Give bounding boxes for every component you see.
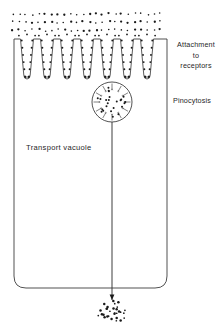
pit-receptor-dot — [61, 40, 63, 42]
released-ligand-dot — [115, 320, 117, 322]
extracellular-ligand-dot — [120, 20, 122, 22]
pit-receptor-dot — [49, 61, 51, 63]
released-ligand-dot — [115, 308, 118, 311]
pit-receptor-dot — [50, 54, 52, 56]
pit-mouth-dot — [118, 35, 120, 37]
coated-pit — [18, 34, 36, 80]
pit-ligand-dot — [87, 76, 89, 78]
extracellular-ligand-dot — [134, 28, 136, 30]
coated-pit-group — [18, 34, 156, 80]
coated-pit — [138, 34, 156, 80]
released-ligand-dot — [109, 310, 111, 312]
extracellular-ligand-dot — [56, 22, 58, 24]
extracellular-ligand-dot — [140, 12, 142, 14]
pit-ligand-dot — [47, 76, 49, 78]
extracellular-ligand-dot — [71, 30, 73, 32]
extracellular-ligand-dot — [148, 14, 150, 16]
pit-receptor-dot — [149, 68, 151, 70]
released-ligand-dot — [120, 311, 122, 313]
pit-receptor-dot — [42, 54, 44, 56]
pit-receptor-dot — [129, 61, 131, 63]
pit-receptor-dot — [109, 61, 111, 63]
extracellular-ligand-dot — [11, 29, 13, 31]
pit-receptor-dot — [83, 61, 85, 63]
pit-wall — [21, 39, 34, 79]
pit-wall — [41, 39, 54, 79]
vesicle-ligand-dot — [109, 96, 111, 98]
released-ligand-dot — [97, 315, 99, 317]
extracellular-ligand-dot — [13, 14, 15, 16]
extracellular-ligand-dot — [63, 14, 65, 16]
extracellular-ligand-dot — [120, 12, 122, 14]
extracellular-ligand-dot — [70, 20, 72, 22]
pit-receptor-dot — [83, 68, 85, 70]
pit-receptor-dot — [101, 47, 103, 49]
vesicle-ligand-dot — [107, 102, 109, 104]
pit-receptor-dot — [121, 47, 123, 49]
extracellular-ligand-dot — [154, 29, 156, 31]
pit-mouth-dot — [78, 35, 80, 37]
released-ligand-dot — [112, 300, 115, 303]
pit-mouth-dot — [86, 34, 88, 36]
pit-receptor-dot — [103, 68, 105, 70]
pit-receptor-dot — [91, 40, 93, 42]
extracellular-ligand-dot — [95, 12, 97, 14]
vesicle-ligand-dot — [99, 98, 101, 100]
vesicle-ligand-dot — [116, 101, 118, 103]
released-ligand-dot — [124, 309, 126, 311]
pit-receptor-dot — [41, 47, 43, 49]
extracellular-ligand-dot — [109, 20, 111, 22]
released-ligand-dot — [103, 316, 106, 319]
pit-receptor-dot — [49, 68, 51, 70]
extracellular-ligand-dot — [154, 21, 156, 23]
pit-mouth-dot — [94, 35, 96, 37]
pit-ligand-dot — [107, 76, 109, 78]
pit-receptor-dot — [90, 54, 92, 56]
coated-pit — [98, 34, 116, 80]
extracellular-ligand-dot — [51, 30, 53, 32]
extracellular-ligand-dot — [107, 12, 109, 14]
released-ligand-dot — [110, 318, 113, 321]
extracellular-ligand-dot — [128, 13, 130, 15]
extracellular-ligand-dot — [44, 21, 46, 23]
extracellular-ligand-dot — [45, 30, 47, 32]
pit-wall — [81, 39, 94, 79]
extracellular-ligand-dot — [24, 30, 26, 32]
released-ligand-dot — [116, 312, 118, 314]
extracellular-ligand-dot — [89, 21, 91, 23]
extracellular-ligand-dot — [101, 29, 103, 31]
pit-receptor-dot — [123, 61, 125, 63]
pit-receptor-dot — [69, 61, 71, 63]
pit-receptor-dot — [71, 40, 73, 42]
pit-mouth-dot — [106, 34, 108, 36]
pit-receptor-dot — [151, 47, 153, 49]
pit-receptor-dot — [51, 40, 53, 42]
released-ligand-dot — [101, 313, 104, 316]
extracellular-ligand-dot — [158, 28, 160, 30]
pit-receptor-dot — [111, 40, 113, 42]
pit-receptor-dot — [31, 47, 33, 49]
transport-vacuole-arrow — [110, 122, 115, 300]
pit-mouth-dot — [114, 35, 116, 37]
pit-receptor-dot — [102, 54, 104, 56]
coated-pit — [78, 34, 96, 80]
released-ligand-dot — [99, 309, 102, 312]
pit-receptor-dot — [91, 47, 93, 49]
pit-ligand-dot — [25, 76, 27, 78]
extracellular-ligand-dot — [108, 29, 110, 31]
pit-receptor-dot — [51, 47, 53, 49]
pit-receptor-dot — [149, 61, 151, 63]
pit-receptor-dot — [71, 47, 73, 49]
extracellular-ligand-dot — [114, 21, 116, 23]
pit-receptor-dot — [41, 40, 43, 42]
vesicle-ligand-dot — [117, 113, 119, 115]
vesicle-ligand-dot — [112, 116, 114, 118]
released-ligand-dot — [117, 301, 120, 304]
extracellular-ligand-dot — [96, 29, 98, 31]
released-ligand-dot — [123, 312, 125, 314]
pit-receptor-dot — [130, 54, 132, 56]
extracellular-ligand-dot — [62, 22, 64, 24]
extracellular-ligand-dot — [83, 14, 85, 16]
pit-wall — [61, 39, 74, 79]
extracellular-ligand-dot — [17, 28, 19, 30]
